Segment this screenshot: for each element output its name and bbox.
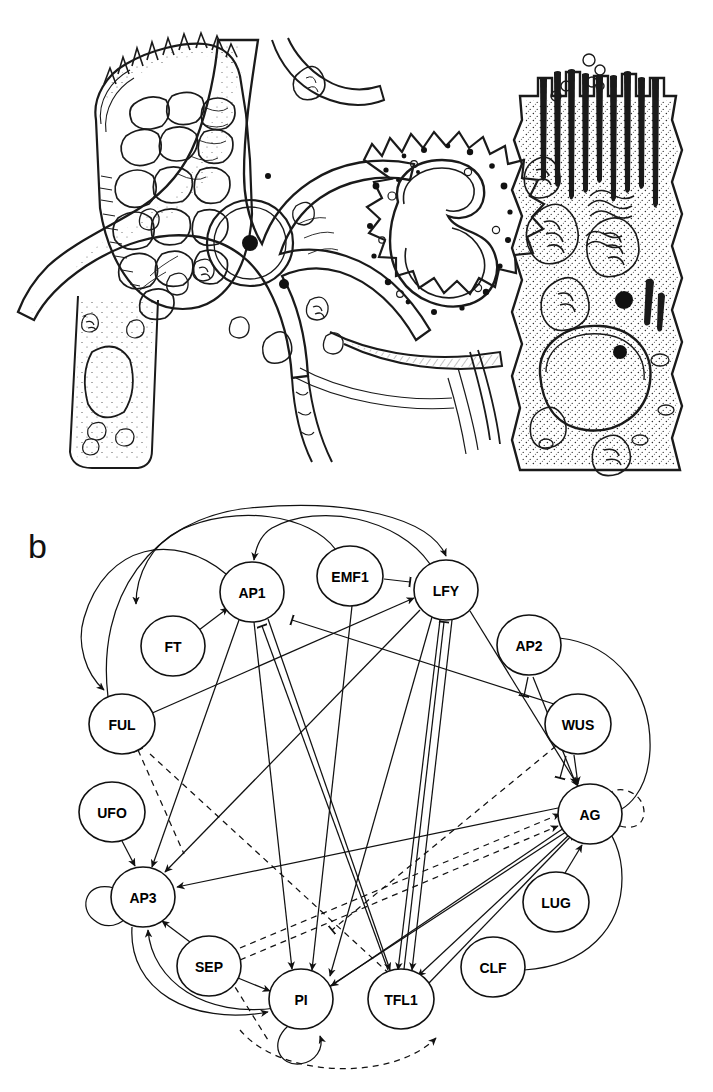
node-label-ap2: AP2 (515, 638, 542, 654)
dense-granule (615, 291, 633, 309)
node-label-ful: FUL (108, 717, 136, 733)
lower-left-cell-process (70, 296, 158, 468)
node-ap3[interactable]: AP3 (111, 867, 175, 927)
panel-label-b: b (28, 527, 47, 565)
node-lfy[interactable]: LFY (414, 560, 478, 620)
selfloop-PI (278, 1026, 321, 1064)
gene-regulatory-network: b (0, 478, 713, 1092)
edge-TFL1-LFY (404, 622, 444, 969)
node-label-wus: WUS (562, 717, 595, 733)
node-label-lfy: LFY (433, 583, 460, 599)
node-ag[interactable]: AG (558, 784, 622, 844)
lower-center-strands (263, 332, 332, 462)
node-label-tfl1: TFL1 (384, 992, 418, 1008)
node-ufo[interactable]: UFO (79, 782, 145, 842)
node-tfl1[interactable]: TFL1 (368, 969, 434, 1029)
node-label-emf1: EMF1 (331, 569, 369, 585)
edge-SEP-AP3 (162, 921, 190, 942)
edge-AP1-PI (254, 622, 292, 969)
node-label-ap3: AP3 (129, 890, 156, 906)
edge-bottom-dashed-arc (240, 1030, 436, 1069)
node-ap2[interactable]: AP2 (497, 615, 561, 675)
node-label-ufo: UFO (97, 805, 127, 821)
edge-AP2-AG-tbar (524, 677, 528, 696)
node-label-clf: CLF (479, 960, 507, 976)
edge-FUL-AP3-dashed (138, 750, 184, 854)
node-ful[interactable]: FUL (89, 694, 155, 754)
node-sep[interactable]: SEP (177, 936, 241, 996)
columnar-microvilli-cell (512, 54, 682, 476)
histology-illustration-panel (0, 0, 713, 478)
node-pi[interactable]: PI (269, 969, 333, 1029)
node-label-sep: SEP (195, 959, 223, 975)
basal-strand (296, 332, 502, 409)
edge-LUG-AG (565, 845, 582, 873)
upper-branch-arm (272, 38, 384, 105)
node-clf[interactable]: CLF (461, 937, 525, 997)
node-label-ag: AG (580, 807, 601, 823)
edge-LFY-TFL1a (398, 620, 440, 970)
gene-regulatory-network-panel: b (0, 478, 713, 1092)
node-lug[interactable]: LUG (523, 872, 589, 932)
node-ap1[interactable]: AP1 (220, 562, 284, 622)
edge-UFO-AP3 (122, 841, 135, 866)
node-ft[interactable]: FT (141, 616, 205, 676)
node-emf1[interactable]: EMF1 (317, 546, 383, 606)
edge-SEP-PI (238, 978, 270, 991)
node-label-ap1: AP1 (238, 585, 265, 601)
node-label-lug: LUG (541, 895, 571, 911)
nucleolus (242, 235, 258, 251)
node-label-ft: FT (164, 639, 182, 655)
figure-page: b (0, 0, 713, 1092)
edge-TFL1-AP1 (262, 626, 388, 970)
edge-EMF1-LFY (384, 579, 410, 582)
histology-illustration (0, 0, 713, 478)
node-label-pi: PI (294, 992, 307, 1008)
node-wus[interactable]: WUS (545, 694, 611, 754)
edge-FT-AP1 (199, 608, 228, 630)
lobed-nucleus-granulocyte (364, 132, 544, 315)
